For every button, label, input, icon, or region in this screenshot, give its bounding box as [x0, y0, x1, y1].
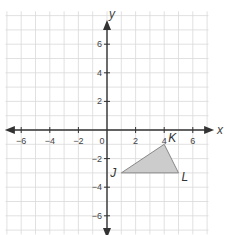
x-tick-label: 6 [190, 136, 195, 146]
x-tick-label: −4 [45, 136, 55, 146]
vertex-label-k: K [168, 131, 177, 145]
y-tick-label: −2 [92, 154, 102, 164]
x-axis-left-arrow-icon [5, 126, 15, 134]
y-tick-label: 2 [97, 96, 102, 106]
y-axis-down-arrow-icon [103, 228, 111, 235]
x-tick-label: −2 [73, 136, 83, 146]
vertex-label-j: J [109, 166, 117, 180]
vertex-label-l: L [182, 170, 189, 184]
x-tick-label: 2 [133, 136, 138, 146]
y-tick-label: 4 [97, 68, 102, 78]
y-tick-label: −4 [92, 182, 102, 192]
axes: xy [5, 7, 224, 235]
x-tick-label: −6 [16, 136, 26, 146]
x-axis-label: x [216, 123, 224, 137]
origin-label: 0 [99, 136, 104, 146]
y-tick-label: 6 [97, 39, 102, 49]
y-tick-label: −6 [92, 211, 102, 221]
coordinate-plane: xy −6−4−22460642−2−4−6 JKL [0, 0, 228, 235]
y-axis-up-arrow-icon [103, 20, 111, 30]
x-axis-right-arrow-icon [204, 126, 214, 134]
y-axis-label: y [108, 7, 116, 21]
